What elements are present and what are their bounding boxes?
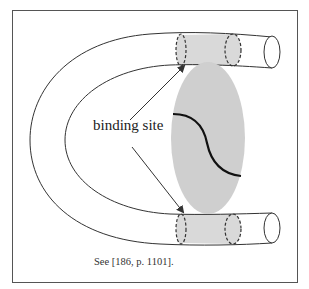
bottom-binding-region [176, 214, 241, 244]
top-binding-region [176, 34, 241, 66]
top-tube-end [264, 36, 280, 68]
binding-site-label: binding site [93, 117, 163, 134]
molecule [171, 62, 245, 214]
bottom-tube-end [264, 213, 280, 243]
binding-diagram [0, 0, 309, 289]
figure-caption: See [186, p. 1101]. [94, 256, 174, 267]
